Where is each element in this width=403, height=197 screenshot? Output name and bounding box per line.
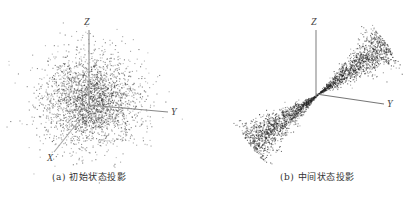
z-axis-label: Z xyxy=(311,16,317,27)
scatter-plot-intermediate xyxy=(200,0,403,197)
z-axis-label: Z xyxy=(84,16,90,27)
panel-intermediate-state: Z Y (b) 中间状态投影 xyxy=(200,0,403,197)
x-axis xyxy=(54,122,78,152)
y-axis-label: Y xyxy=(171,106,177,117)
y-axis xyxy=(89,105,168,112)
y-axis xyxy=(316,94,384,104)
x-axis-label: X xyxy=(47,152,53,163)
scatter-plot-initial xyxy=(0,0,200,197)
y-axis-label: Y xyxy=(387,98,393,109)
caption-b: (b) 中间状态投影 xyxy=(280,170,355,183)
panel-initial-state: Z Y X (a) 初始状态投影 xyxy=(0,0,200,197)
caption-a: (a) 初始状态投影 xyxy=(52,170,126,183)
